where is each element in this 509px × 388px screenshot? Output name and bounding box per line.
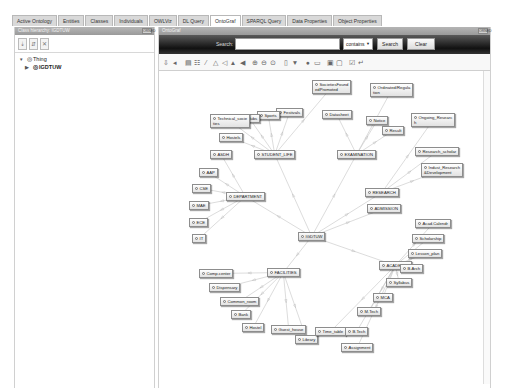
graph-canvas[interactable]: IGDTUWSTUDENT_LIFEEXAMINATIONRESEARCHADM… — [159, 71, 490, 388]
graph-node-guest-house[interactable]: Guest_house — [271, 325, 306, 334]
graph-node-assignment[interactable]: Assignment — [341, 343, 373, 352]
zoom-fit-icon[interactable]: ⊙ — [269, 57, 277, 68]
panel-options-button[interactable]: ORNED — [478, 28, 488, 34]
graph-node-dispensary[interactable]: Dispensary — [209, 283, 240, 292]
node-label: ECE — [197, 220, 206, 225]
node-label: Result — [390, 128, 402, 133]
tab-owlviz[interactable]: OWLViz — [149, 15, 177, 26]
graph-node-asdh[interactable]: ASDH — [210, 150, 232, 159]
export-icon[interactable]: ▭ — [313, 57, 321, 68]
panel-options-button[interactable]: ORNED — [142, 28, 152, 34]
graph-node-scholarship[interactable]: Scholarship — [412, 234, 444, 243]
apply-icon[interactable]: ↵ — [357, 57, 365, 68]
graph-node-research-scholar[interactable]: Research_scholar — [415, 147, 459, 156]
horizontal-tree-icon[interactable]: ◁ — [220, 57, 228, 68]
vertical-tree-icon[interactable]: ☷ — [193, 57, 201, 68]
node-label: B.Arch — [408, 266, 421, 271]
graph-node-student-life[interactable]: STUDENT_LIFE — [254, 150, 295, 159]
node-label: Sports — [265, 113, 277, 118]
graph-node-barch[interactable]: B.Arch — [400, 264, 423, 273]
search-input[interactable] — [235, 38, 340, 50]
graph-node-ongoing[interactable]: Ongoing_Researc h — [411, 113, 455, 127]
graph-node-cse[interactable]: CSE — [192, 184, 211, 193]
vertical-scrollbar[interactable] — [483, 71, 490, 384]
check-icon[interactable]: ☑ — [348, 57, 356, 68]
tab-entities[interactable]: Entities — [58, 15, 84, 26]
spring-layout-icon[interactable]: △ — [211, 57, 219, 68]
tab-classes[interactable]: Classes — [85, 15, 113, 26]
graph-node-aap[interactable]: AAP — [199, 168, 218, 177]
grid-layout-icon[interactable]: ▤ — [184, 57, 192, 68]
graph-node-root[interactable]: IGDTUW — [298, 232, 325, 241]
graph-node-bank[interactable]: Bank — [231, 310, 251, 319]
tab-sparql-query[interactable]: SPARQL Query — [242, 15, 287, 26]
vertical-directed-icon[interactable]: ▲ — [229, 57, 237, 68]
filter-arc-icon[interactable]: ▼ — [291, 57, 299, 68]
search-button[interactable]: Search — [377, 38, 403, 50]
unpin-icon[interactable]: ◂ — [171, 57, 179, 68]
graph-node-hostels[interactable]: Hostels — [219, 133, 243, 142]
clear-button[interactable]: Clear — [407, 38, 435, 50]
search-mode-select[interactable]: contains ▼ — [343, 38, 373, 50]
graph-node-department[interactable]: DEPARTMENT — [226, 192, 265, 201]
graph-node-research[interactable]: RESEARCH — [365, 188, 399, 197]
graph-node-indust[interactable]: Indust_Research &Development — [421, 163, 463, 177]
class-icon — [298, 338, 301, 341]
zoom-in-icon[interactable]: ⊕ — [251, 57, 259, 68]
node-label: ADMISSION — [375, 206, 399, 211]
graph-node-notice[interactable]: Notice — [366, 116, 388, 125]
class-icon — [382, 264, 385, 267]
graph-node-mtech[interactable]: M.Tech — [357, 307, 381, 316]
zoom-out-icon[interactable]: ⊖ — [260, 57, 268, 68]
graph-node-admission[interactable]: ADMISSION — [367, 204, 401, 213]
graph-node-ordinated[interactable]: Ordinated/Regula tion — [370, 83, 413, 97]
graph-node-btech[interactable]: B.Tech — [345, 327, 368, 336]
pin-icon[interactable]: ⇩ — [162, 57, 170, 68]
graph-node-result[interactable]: Result — [382, 126, 404, 135]
graph-node-library[interactable]: Library — [295, 335, 318, 344]
tree-node-thing[interactable]: ▼ ◎ Thing — [19, 55, 150, 63]
collapse-toggle-icon[interactable]: ▶ — [25, 64, 31, 72]
class-icon — [234, 313, 237, 316]
graph-node-examination[interactable]: EXAMINATION — [337, 150, 376, 159]
graph-node-sports[interactable]: Sports — [257, 111, 280, 120]
class-icon — [213, 153, 216, 156]
tab-dl-query[interactable]: DL Query — [178, 15, 209, 26]
tree-node-igdtuw[interactable]: ▶ ◎ IGDTUW — [19, 63, 150, 71]
snapshot-icon[interactable]: ▣ — [326, 57, 334, 68]
horizontal-directed-icon[interactable]: ◀ — [238, 57, 246, 68]
graph-node-lesson-plan[interactable]: Lesson_plan — [408, 249, 442, 258]
graph-node-ece[interactable]: ECE — [189, 218, 208, 227]
graph-node-acad-calendar[interactable]: Acad.Calendr — [415, 219, 451, 228]
tab-data-properties[interactable]: Data Properties — [287, 15, 332, 26]
graph-node-mae[interactable]: MAE — [189, 201, 209, 210]
graph-node-syllabus[interactable]: Syllabus — [386, 278, 412, 287]
graph-node-societies[interactable]: SocietiesFound edPromoted — [312, 80, 351, 94]
tab-individuals[interactable]: Individuals — [114, 15, 148, 26]
tab-active-ontology[interactable]: Active Ontology — [12, 15, 57, 26]
graph-node-technical[interactable]: Technical_socie ties — [210, 114, 250, 128]
class-icon — [274, 328, 277, 331]
delete-class-icon[interactable]: ✕ — [40, 38, 49, 50]
save-icon[interactable]: ▢ — [335, 57, 343, 68]
ontograf-header: OntoGraf ORNED — [159, 27, 490, 35]
radial-layout-icon[interactable]: ⁄ — [202, 57, 210, 68]
graph-node-datasheet[interactable]: Datasheet — [322, 110, 352, 119]
tab-ontograf[interactable]: OntoGraf — [210, 15, 241, 26]
graph-node-comp-center[interactable]: Comp.center — [199, 269, 233, 278]
tab-object-properties[interactable]: Object Properties — [333, 15, 382, 26]
graph-node-mca[interactable]: MCA — [373, 293, 393, 302]
graph-node-common-room[interactable]: Common_room — [220, 297, 259, 306]
noise-icon[interactable]: ● — [304, 57, 312, 68]
add-sibling-icon[interactable]: ⇵ — [29, 38, 38, 50]
filter-node-icon[interactable]: ▯ — [282, 57, 290, 68]
add-subclass-icon[interactable]: ⇣ — [18, 38, 27, 50]
class-icon — [424, 166, 427, 169]
graph-node-hostel[interactable]: Hostel — [242, 323, 264, 332]
class-icon — [376, 296, 379, 299]
graph-node-facilities[interactable]: FACILITIES — [267, 268, 300, 277]
graph-node-festivals[interactable]: Festivals — [276, 108, 303, 117]
graph-node-time-table[interactable]: Time_table — [315, 327, 346, 336]
graph-node-it[interactable]: IT — [192, 234, 206, 243]
node-label: Hostels — [227, 135, 241, 140]
